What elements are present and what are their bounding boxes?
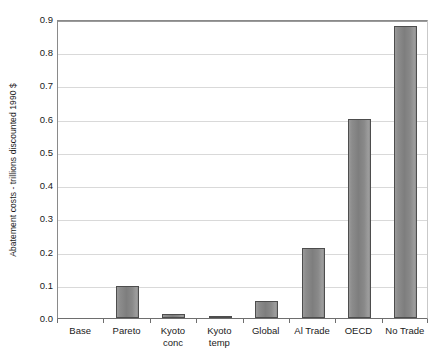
x-axis-tick (382, 319, 383, 323)
bar-slot (244, 21, 290, 318)
y-axis-tick-label: 0.4 (22, 181, 53, 191)
bar[interactable] (302, 248, 325, 318)
y-axis-tick-labels: 0.00.10.20.30.40.50.60.70.80.9 (22, 20, 53, 319)
bar[interactable] (348, 119, 371, 318)
bar-slot (336, 21, 382, 318)
x-axis-tick-label: Kyoto temp (196, 325, 242, 348)
y-axis-tick-label: 0.2 (22, 248, 53, 258)
x-axis-tick (150, 319, 151, 323)
y-axis-tick-label: 0.5 (22, 148, 53, 158)
x-axis-tick (57, 319, 58, 323)
x-axis-ticks (57, 319, 428, 324)
x-axis-tick-label: Kyoto conc (150, 325, 196, 348)
y-axis-tick-label: 0.1 (22, 281, 53, 291)
bar-slot (290, 21, 336, 318)
bar[interactable] (255, 301, 278, 318)
bar[interactable] (394, 26, 417, 318)
bars-layer (58, 21, 427, 318)
y-axis-tick-label: 0.9 (22, 15, 53, 25)
x-axis-tick-label: No Trade (382, 325, 428, 337)
y-axis-tick-label: 0.3 (22, 214, 53, 224)
y-axis-tick-label: 0.8 (22, 48, 53, 58)
x-axis-tick (196, 319, 197, 323)
x-axis-tick-label: Al Trade (289, 325, 335, 337)
y-axis-tick-label: 0.6 (22, 115, 53, 125)
bar-slot (58, 21, 104, 318)
bar-slot (151, 21, 197, 318)
bar[interactable] (209, 316, 232, 318)
x-axis-tick-label: Base (57, 325, 103, 337)
bar-chart: Abatement costs - trillions discounted 1… (0, 0, 441, 363)
y-axis-tick-label: 0.7 (22, 81, 53, 91)
plot-area (57, 20, 428, 319)
x-axis-tick (103, 319, 104, 323)
x-axis-tick (243, 319, 244, 323)
x-axis-tick-label: OECD (335, 325, 381, 337)
bar[interactable] (116, 286, 139, 318)
bar-slot (104, 21, 150, 318)
x-axis-tick-label: Pareto (103, 325, 149, 337)
y-axis-tick-label: 0.0 (22, 314, 53, 324)
x-axis-tick-labels: BaseParetoKyoto concKyoto tempGlobalAl T… (57, 325, 428, 359)
x-axis-tick (289, 319, 290, 323)
x-axis-tick-label: Global (243, 325, 289, 337)
bar-slot (197, 21, 243, 318)
bar-slot (383, 21, 429, 318)
x-axis-tick (335, 319, 336, 323)
bar[interactable] (162, 314, 185, 318)
x-axis-tick (427, 319, 428, 323)
y-axis-title: Abatement costs - trillions discounted 1… (6, 10, 20, 330)
